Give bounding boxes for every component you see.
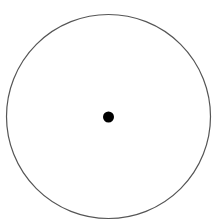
diagram-canvas bbox=[0, 0, 213, 221]
center-point bbox=[103, 112, 114, 123]
